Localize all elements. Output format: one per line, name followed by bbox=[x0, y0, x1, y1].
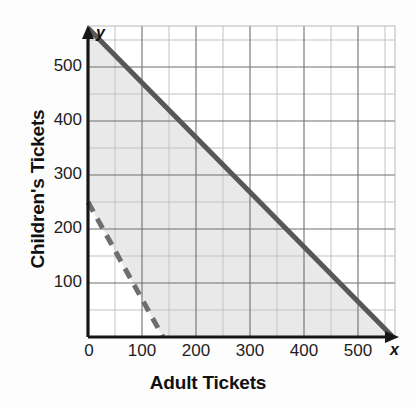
y-axis-title: Children's Tickets bbox=[27, 59, 49, 319]
x-axis-letter: x bbox=[390, 341, 399, 359]
x-tick-label-200: 200 bbox=[174, 341, 218, 361]
x-tick-label-100: 100 bbox=[120, 341, 164, 361]
y-axis-letter: y bbox=[96, 24, 105, 42]
x-tick-label-300: 300 bbox=[228, 341, 272, 361]
x-axis-title: Adult Tickets bbox=[0, 372, 416, 394]
chart-figure: 0 100 200 300 400 500 100 200 300 400 50… bbox=[0, 0, 416, 408]
x-tick-label-400: 400 bbox=[282, 341, 326, 361]
x-tick-label-0: 0 bbox=[82, 341, 96, 361]
x-tick-label-500: 500 bbox=[336, 341, 380, 361]
